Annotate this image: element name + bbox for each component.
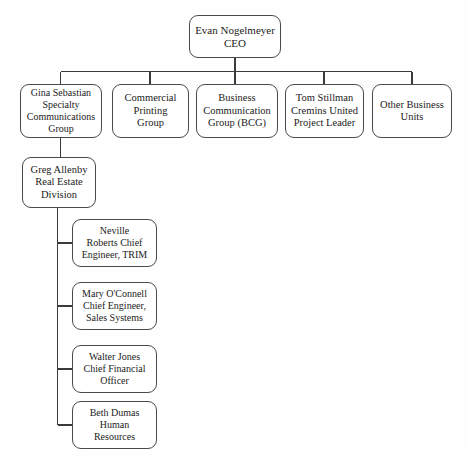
node-trim-engineer[interactable]: NevilleRoberts ChiefEngineer, TRIM [72,219,157,267]
node-business-communication-label: BusinessCommunicationGroup (BCG) [200,92,274,129]
node-trim-engineer-label: NevilleRoberts ChiefEngineer, TRIM [76,225,153,260]
node-chief-financial-officer[interactable]: Walter JonesChief FinancialOfficer [72,345,157,393]
org-chart: Evan NogelmeyerCEO Gina SebastianSpecial… [0,0,468,455]
node-sales-systems-engineer-label: Mary O'ConnellChief Engineer,Sales Syste… [76,288,153,323]
node-specialty-communications-label: Gina SebastianSpecialtyCommunicationsGro… [24,87,98,134]
node-cremins-united-label: Tom StillmanCremins UnitedProject Leader [289,92,360,129]
node-business-communication[interactable]: BusinessCommunicationGroup (BCG) [196,84,278,138]
node-commercial-printing-label: CommercialPrintingGroup [116,92,185,129]
node-ceo[interactable]: Evan NogelmeyerCEO [189,15,281,58]
node-cremins-united[interactable]: Tom StillmanCremins UnitedProject Leader [285,84,364,138]
node-sales-systems-engineer[interactable]: Mary O'ConnellChief Engineer,Sales Syste… [72,282,157,330]
node-other-business-units[interactable]: Other BusinessUnits [372,84,452,138]
connector-lines [0,0,468,455]
node-human-resources-label: Beth DumasHumanResources [76,407,153,442]
node-commercial-printing[interactable]: CommercialPrintingGroup [112,84,189,138]
node-specialty-communications[interactable]: Gina SebastianSpecialtyCommunicationsGro… [20,84,102,138]
node-other-business-units-label: Other BusinessUnits [376,99,448,124]
node-human-resources[interactable]: Beth DumasHumanResources [72,401,157,449]
node-chief-financial-officer-label: Walter JonesChief FinancialOfficer [76,351,153,386]
node-ceo-label: Evan NogelmeyerCEO [193,24,277,50]
node-real-estate-division[interactable]: Greg AllenbyReal EstateDivision [22,157,96,208]
node-real-estate-division-label: Greg AllenbyReal EstateDivision [26,164,92,201]
